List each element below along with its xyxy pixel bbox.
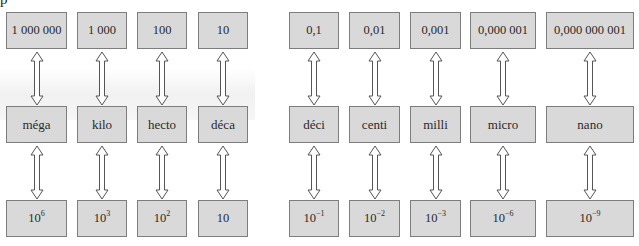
power-of-ten-box: 106 <box>6 200 67 237</box>
prefix-name-box: kilo <box>77 106 127 143</box>
power-of-ten: 10−1 <box>303 211 324 226</box>
double-arrow-icon-svg <box>368 145 382 200</box>
decimal-value-box: 0,000 000 001 <box>546 12 634 49</box>
double-arrow-icon <box>496 51 510 106</box>
double-arrow-icon <box>307 51 321 106</box>
double-arrow-icon <box>30 145 44 200</box>
double-arrow-icon-svg <box>95 51 109 106</box>
power-of-ten-box: 10−6 <box>470 200 536 237</box>
double-arrow-icon <box>583 145 597 200</box>
power-of-ten-box: 10−2 <box>349 200 400 237</box>
double-arrow-icon <box>216 51 230 106</box>
double-arrow-icon <box>95 145 109 200</box>
power-base: 10 <box>28 211 41 225</box>
prefix-column-micro: 0,000 001 micro 10−6 <box>470 0 536 246</box>
double-arrow-icon <box>496 145 510 200</box>
prefix-name-box: nano <box>546 106 634 143</box>
decimal-value: 100 <box>153 23 172 38</box>
prefix-column-nano: 0,000 000 001 nano 10−9 <box>546 0 634 246</box>
decimal-value: 0,000 001 <box>478 23 528 38</box>
power-base: 10 <box>425 211 438 225</box>
decimal-value: 1 000 000 <box>12 23 62 38</box>
prefix-name: centi <box>362 117 387 133</box>
prefix-column-centi: 0,01 centi 10−2 <box>349 0 400 246</box>
double-arrow-icon-svg <box>307 51 321 106</box>
prefix-name-box: centi <box>349 106 400 143</box>
prefix-name-box: micro <box>470 106 536 143</box>
power-of-ten-box: 10 <box>198 200 248 237</box>
double-arrow-icon-svg <box>583 145 597 200</box>
double-arrow-icon <box>429 145 443 200</box>
decimal-value-box: 1 000 <box>77 12 127 49</box>
decimal-value: 10 <box>217 23 230 38</box>
decimal-value: 1 000 <box>88 23 116 38</box>
double-arrow-icon-svg <box>583 51 597 106</box>
double-arrow-icon-svg <box>496 51 510 106</box>
prefix-column-déca: 10 déca 10 <box>198 0 248 246</box>
double-arrow-icon-svg <box>30 145 44 200</box>
double-arrow-icon-svg <box>216 145 230 200</box>
prefix-name-box: hecto <box>137 106 187 143</box>
power-exponent: −1 <box>316 209 325 218</box>
double-arrow-icon <box>368 145 382 200</box>
double-arrow-icon <box>95 51 109 106</box>
double-arrow-icon-svg <box>496 145 510 200</box>
decimal-value-box: 0,000 001 <box>470 12 536 49</box>
power-base: 10 <box>364 211 377 225</box>
power-base: 10 <box>94 211 107 225</box>
decimal-value: 0,000 000 001 <box>554 23 626 38</box>
prefix-column-kilo: 1 000 kilo 103 <box>77 0 127 246</box>
power-exponent: −9 <box>592 209 601 218</box>
prefix-name: nano <box>577 117 602 133</box>
decimal-value-box: 10 <box>198 12 248 49</box>
prefix-column-milli: 0,001 milli 10−3 <box>410 0 461 246</box>
power-exponent: −3 <box>437 209 446 218</box>
power-of-ten: 10−9 <box>579 211 600 226</box>
prefix-name: déci <box>303 117 325 133</box>
power-exponent: −2 <box>376 209 385 218</box>
decimal-value: 0,01 <box>364 23 386 38</box>
power-of-ten: 103 <box>94 211 111 226</box>
power-exponent: 6 <box>41 209 45 218</box>
power-of-ten: 10−6 <box>492 211 513 226</box>
double-arrow-icon <box>216 145 230 200</box>
double-arrow-icon-svg <box>307 145 321 200</box>
double-arrow-icon-svg <box>155 145 169 200</box>
prefix-name-box: déca <box>198 106 248 143</box>
decimal-value: 0,1 <box>306 23 322 38</box>
prefix-name: hecto <box>148 117 176 133</box>
prefix-column-déci: 0,1 déci 10−1 <box>289 0 339 246</box>
power-exponent: 3 <box>106 209 110 218</box>
double-arrow-icon-svg <box>429 145 443 200</box>
decimal-value-box: 0,01 <box>349 12 400 49</box>
power-of-ten: 10 <box>217 211 230 226</box>
double-arrow-icon-svg <box>429 51 443 106</box>
power-exponent: 2 <box>166 209 170 218</box>
power-of-ten-box: 10−9 <box>546 200 634 237</box>
power-of-ten-box: 10−1 <box>289 200 339 237</box>
double-arrow-icon-svg <box>368 51 382 106</box>
prefix-name-box: milli <box>410 106 461 143</box>
prefix-name: déca <box>211 117 235 133</box>
power-base: 10 <box>303 211 316 225</box>
power-of-ten: 106 <box>28 211 45 226</box>
prefix-column-hecto: 100 hecto 102 <box>137 0 187 246</box>
double-arrow-icon-svg <box>30 51 44 106</box>
prefix-name: méga <box>22 117 50 133</box>
prefix-name: micro <box>488 117 518 133</box>
prefix-name-box: déci <box>289 106 339 143</box>
double-arrow-icon <box>368 51 382 106</box>
double-arrow-icon <box>583 51 597 106</box>
power-of-ten: 10−3 <box>425 211 446 226</box>
decimal-value-box: 1 000 000 <box>6 12 67 49</box>
power-base: 10 <box>492 211 505 225</box>
power-exponent: −6 <box>505 209 514 218</box>
decimal-value-box: 0,001 <box>410 12 461 49</box>
double-arrow-icon <box>155 51 169 106</box>
decimal-value-box: 0,1 <box>289 12 339 49</box>
prefix-name-box: méga <box>6 106 67 143</box>
prefix-column-méga: 1 000 000 méga 106 <box>6 0 67 246</box>
power-base: 10 <box>579 211 592 225</box>
power-of-ten: 10−2 <box>364 211 385 226</box>
power-of-ten-box: 10−3 <box>410 200 461 237</box>
